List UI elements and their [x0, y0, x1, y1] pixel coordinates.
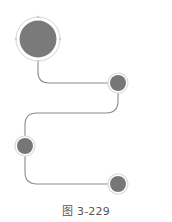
node-small-2 [108, 73, 128, 93]
figure-caption: 图 3-229 [0, 202, 172, 218]
node-small-4 [108, 174, 128, 194]
connector-2-3 [25, 93, 118, 136]
connector-1-2 [38, 61, 108, 83]
connector-3-4 [25, 156, 108, 184]
node-large [15, 16, 61, 62]
node-small-3 [15, 136, 35, 156]
timeline-diagram [0, 0, 172, 222]
